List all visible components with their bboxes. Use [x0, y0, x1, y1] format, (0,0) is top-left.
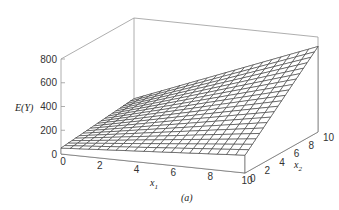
x2-axis-label: x2 — [293, 159, 302, 173]
x2-tick-label: 2 — [265, 165, 271, 176]
x1-axis-label: x1 — [149, 177, 158, 191]
x1-tick-label: 2 — [97, 160, 103, 171]
x2-tick-label: 8 — [308, 140, 314, 151]
figure-caption: (a) — [181, 192, 193, 204]
z-tick-label: 0 — [51, 149, 57, 160]
x1-tick-label: 0 — [60, 156, 66, 167]
z-tick-label: 400 — [40, 101, 57, 112]
x1-tick-label: 8 — [207, 171, 213, 182]
z-tick-label: 800 — [40, 54, 57, 65]
x2-tick-label: 6 — [294, 148, 300, 159]
x1-tick-label: 6 — [171, 167, 177, 178]
x1-tick-label: 4 — [134, 164, 140, 175]
surface-plot: 0200400600800 0246810 0246810 E(Y) x1 x2… — [0, 0, 339, 210]
surface-mesh — [61, 47, 318, 174]
x2-tick-label: 4 — [279, 157, 285, 168]
z-tick-label: 600 — [40, 77, 57, 88]
x2-tick-label: 10 — [323, 132, 335, 143]
z-tick-label: 200 — [40, 125, 57, 136]
z-axis-label: E(Y) — [14, 102, 34, 114]
x2-tick-label: 0 — [250, 173, 256, 184]
